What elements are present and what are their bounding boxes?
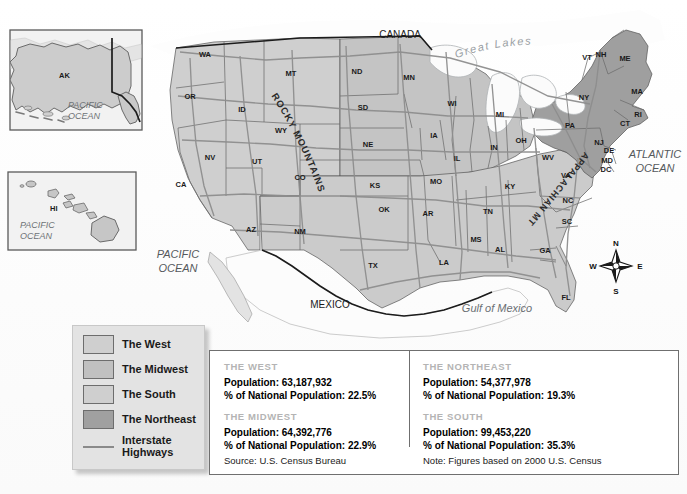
legend-swatch-south xyxy=(83,385,114,404)
alaska-inset: AK PACIFIC OCEAN xyxy=(10,30,142,130)
legend-label-northeast: The Northeast xyxy=(122,414,196,426)
state-label-il: IL xyxy=(454,154,461,163)
gulf-of-mexico-label: Gulf of Mexico xyxy=(462,302,532,314)
state-label-nc: NC xyxy=(563,196,574,205)
state-label-az: AZ xyxy=(246,225,256,234)
panel-divider xyxy=(409,351,410,447)
stat-block-west: THE WEST Population: 63,187,932 % of Nat… xyxy=(224,361,376,402)
alaska-ocean-label-line1: PACIFIC xyxy=(68,100,103,110)
legend-label-highways: InterstateHighways xyxy=(122,435,173,458)
legend-item-midwest[interactable]: The Midwest xyxy=(83,360,188,379)
stat-percent-west: % of National Population: 22.5% xyxy=(224,389,376,402)
state-label-ut: UT xyxy=(252,157,262,166)
state-label-me: ME xyxy=(619,54,630,63)
stat-heading-south: THE SOUTH xyxy=(423,411,575,422)
legend-label-west: The West xyxy=(122,339,171,351)
state-label-mt: MT xyxy=(286,69,297,78)
state-label-nd: ND xyxy=(352,67,363,76)
state-label-ks: KS xyxy=(370,181,380,190)
state-label-or: OR xyxy=(184,92,196,101)
country-label-canada: CANADA xyxy=(379,29,421,40)
statistics-panel: THE WEST Population: 63,187,932 % of Nat… xyxy=(209,350,679,475)
state-label-wa: WA xyxy=(199,50,212,59)
stat-percent-south: % of National Population: 35.3% xyxy=(423,439,575,452)
state-label-id: ID xyxy=(238,105,246,114)
compass-east-label: E xyxy=(637,262,643,271)
legend-label-highways-line1: Interstate xyxy=(122,434,172,446)
state-label-fl: FL xyxy=(561,293,571,302)
stat-percent-midwest: % of National Population: 22.9% xyxy=(224,439,376,452)
source-note: Source: U.S. Census Bureau xyxy=(224,455,346,466)
state-label-dc: DC xyxy=(601,165,612,174)
state-label-nh: NH xyxy=(596,50,607,59)
state-label-mi: MI xyxy=(496,110,504,119)
state-label-nj: NJ xyxy=(594,138,604,147)
legend-label-highways-line2: Highways xyxy=(122,446,173,458)
stat-population-south: Population: 99,453,220 xyxy=(423,426,575,439)
state-label-va: VA xyxy=(561,171,571,180)
state-label-vt: VT xyxy=(582,53,592,62)
legend-item-west[interactable]: The West xyxy=(83,335,171,354)
legend-item-highways[interactable]: InterstateHighways xyxy=(83,435,173,458)
state-label-sd: SD xyxy=(358,103,369,112)
state-label-hi: HI xyxy=(50,204,58,213)
state-label-co: CO xyxy=(294,173,305,182)
legend-item-northeast[interactable]: The Northeast xyxy=(83,410,196,429)
state-label-mo: MO xyxy=(430,177,442,186)
state-label-md: MD xyxy=(601,156,613,165)
state-label-ne: NE xyxy=(363,140,373,149)
state-label-ok: OK xyxy=(378,205,390,214)
state-label-oh: OH xyxy=(515,136,526,145)
hawaii-ocean-label-line1: PACIFIC xyxy=(20,220,55,230)
ocean-label-atlantic-line2: OCEAN xyxy=(635,162,674,174)
state-label-al: AL xyxy=(495,245,505,254)
map-page: The West Today xyxy=(0,0,687,494)
state-label-wy: WY xyxy=(275,126,287,135)
state-label-ri: RI xyxy=(634,110,642,119)
stat-heading-west: THE WEST xyxy=(224,361,376,372)
figures-note: Note: Figures based on 2000 U.S. Census xyxy=(423,455,602,466)
state-label-ny: NY xyxy=(579,93,589,102)
ocean-label-pacific-line1: PACIFIC xyxy=(157,248,200,260)
legend-swatch-northeast xyxy=(83,410,114,429)
compass-north-label: N xyxy=(613,239,619,248)
state-label-ca: CA xyxy=(176,180,187,189)
country-label-mexico: MEXICO xyxy=(310,299,350,310)
stat-block-midwest: THE MIDWEST Population: 64,392,776 % of … xyxy=(224,411,376,452)
legend-swatch-midwest xyxy=(83,360,114,379)
stat-population-west: Population: 63,187,932 xyxy=(224,376,376,389)
legend-swatch-west xyxy=(83,335,114,354)
state-label-ky: KY xyxy=(505,182,515,191)
state-label-sc: SC xyxy=(562,217,573,226)
hawaii-inset: HI PACIFIC OCEAN xyxy=(8,172,136,250)
stat-percent-northeast: % of National Population: 19.3% xyxy=(423,389,575,402)
legend-label-south: The South xyxy=(122,389,176,401)
state-label-pa: PA xyxy=(565,121,575,130)
alaska-ocean-label-line2: OCEAN xyxy=(68,111,101,121)
state-label-ia: IA xyxy=(430,131,438,140)
map-legend: The West The Midwest The South The North… xyxy=(72,325,205,470)
stat-block-south: THE SOUTH Population: 99,453,220 % of Na… xyxy=(423,411,575,452)
state-label-ms: MS xyxy=(470,235,481,244)
compass-south-label: S xyxy=(613,287,619,296)
state-label-tx: TX xyxy=(368,261,378,270)
state-label-de: DE xyxy=(604,146,614,155)
state-label-nm: NM xyxy=(294,227,306,236)
stat-population-northeast: Population: 54,377,978 xyxy=(423,376,575,389)
hawaii-ocean-label-line2: OCEAN xyxy=(20,231,53,241)
state-label-tn: TN xyxy=(483,207,493,216)
state-label-ar: AR xyxy=(423,209,434,218)
stat-heading-midwest: THE MIDWEST xyxy=(224,411,376,422)
legend-label-midwest: The Midwest xyxy=(122,364,188,376)
state-label-wv: WV xyxy=(542,153,554,162)
ocean-label-atlantic-line1: ATLANTIC xyxy=(628,148,681,160)
ocean-label-pacific-line2: OCEAN xyxy=(158,262,197,274)
stat-population-midwest: Population: 64,392,776 xyxy=(224,426,376,439)
interstate-highway-line-icon xyxy=(83,446,114,448)
state-label-ga: GA xyxy=(539,246,551,255)
state-label-ct: CT xyxy=(620,119,630,128)
legend-item-south[interactable]: The South xyxy=(83,385,176,404)
state-label-nv: NV xyxy=(205,153,215,162)
stat-block-northeast: THE NORTHEAST Population: 54,377,978 % o… xyxy=(423,361,575,402)
stat-heading-northeast: THE NORTHEAST xyxy=(423,361,575,372)
